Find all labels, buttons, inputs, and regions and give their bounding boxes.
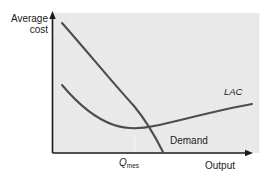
economics-diagram-figure: Average cost Output LAC Demand Qmes (0, 0, 264, 179)
demand-curve-label: Demand (170, 135, 208, 146)
lac-curve-label: LAC (224, 86, 242, 97)
qmes-subscript: mes (127, 162, 139, 169)
y-axis-label: Average cost (2, 13, 48, 35)
qmes-symbol: Q (119, 157, 127, 168)
x-axis-tick-label-qmes: Qmes (119, 157, 139, 168)
plot-area-background (53, 13, 260, 153)
x-axis-label: Output (205, 160, 235, 171)
